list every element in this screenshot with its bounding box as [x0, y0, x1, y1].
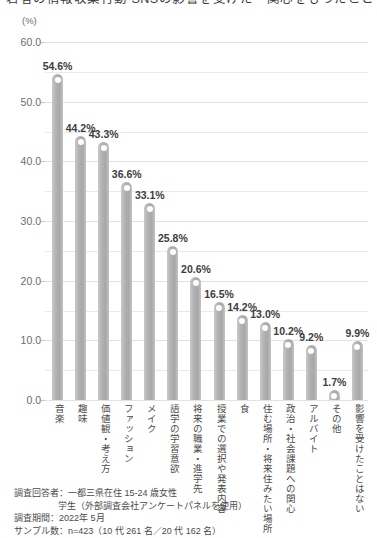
x-axis-category-label: 語学の学習意欲	[166, 404, 179, 474]
y-axis-tick-mark	[41, 102, 45, 103]
bar-cap-hole-icon	[262, 325, 268, 331]
y-axis-tick-mark	[41, 340, 45, 341]
bar-cap-hole-icon	[78, 139, 84, 145]
bar-column[interactable]: 43.3%	[98, 142, 109, 400]
bar[interactable]	[214, 302, 225, 400]
bar-column[interactable]: 9.9%	[352, 341, 363, 400]
bar[interactable]	[260, 322, 271, 400]
bar-column[interactable]: 13.0%	[260, 322, 271, 400]
bar-column[interactable]: 20.6%	[190, 277, 201, 400]
bar[interactable]	[329, 390, 340, 400]
bar-column[interactable]: 36.6%	[121, 182, 132, 400]
bar-value-label: 9.9%	[345, 327, 369, 339]
bar[interactable]	[283, 339, 294, 400]
bar-value-label: 20.6%	[181, 263, 211, 275]
x-axis-category-label: 音楽	[51, 404, 64, 424]
bar[interactable]	[52, 74, 63, 400]
x-axis-category-label: 影響を受けたことはない	[351, 404, 364, 514]
chart-title-cropped: 若者の情報収集行動 SNSの影響を受けた・関心をもったこと	[0, 0, 377, 9]
x-axis-category-label: アルバイト	[305, 404, 318, 454]
gridline-minor	[45, 370, 368, 371]
x-axis-category-label: 価値観・考え方	[97, 404, 110, 474]
bar-cap-hole-icon	[55, 77, 61, 83]
bar-cap-hole-icon	[101, 145, 107, 151]
x-axis-category-label: 授業での選択や発表内容	[213, 404, 226, 514]
bar[interactable]	[144, 203, 155, 400]
bar-column[interactable]: 10.2%	[283, 339, 294, 400]
y-axis-tick-mark	[41, 400, 45, 401]
gridline-minor	[45, 251, 368, 252]
bar-cap-hole-icon	[308, 348, 314, 354]
bar[interactable]	[190, 277, 201, 400]
bar[interactable]	[98, 142, 109, 400]
bar[interactable]	[121, 182, 132, 400]
x-axis-category-label: 食	[236, 404, 249, 414]
x-axis-category-label: 政治・社会課題への関心	[282, 404, 295, 514]
bar-cap-hole-icon	[216, 305, 222, 311]
bar-cap-hole-icon	[147, 206, 153, 212]
y-axis-tick-label: 40.0	[7, 155, 41, 167]
bar-value-label: 1.7%	[322, 376, 346, 388]
gridline-minor	[45, 191, 368, 192]
bar-cap-hole-icon	[331, 393, 337, 399]
x-axis-category-label: 将来の職業・進学先	[189, 404, 202, 494]
y-axis-tick-label: 50.0	[7, 96, 41, 108]
bar-value-label: 9.2%	[299, 331, 323, 343]
bar-cap-hole-icon	[170, 249, 176, 255]
footnote-line-4: サンプル数：n=423（10 代 261 名／20 代 162 名）	[14, 525, 247, 538]
bar-column[interactable]: 33.1%	[144, 203, 155, 400]
x-axis-category-label: メイク	[143, 404, 156, 434]
bar[interactable]	[75, 136, 86, 400]
bar-column[interactable]: 25.8%	[167, 246, 178, 400]
y-axis-tick-mark	[41, 161, 45, 162]
gridline-major	[45, 102, 368, 103]
y-axis-tick-label: 20.0	[7, 275, 41, 287]
gridline-minor	[45, 72, 368, 73]
bar-column[interactable]: 14.2%	[237, 315, 248, 400]
bar-value-label: 33.1%	[135, 189, 165, 201]
y-axis-tick-mark	[41, 221, 45, 222]
y-axis-tick-mark	[41, 281, 45, 282]
bar-column[interactable]: 44.2%	[75, 136, 86, 400]
gridline-major	[45, 161, 368, 162]
bar-value-label: 54.6%	[43, 60, 73, 72]
chart-title-text: 若者の情報収集行動 SNSの影響を受けた・関心をもったこと	[6, 0, 375, 7]
bar-chart: (%) 54.6%44.2%43.3%36.6%33.1%25.8%20.6%1…	[0, 9, 377, 409]
bar-value-label: 13.0%	[250, 308, 280, 320]
bar-cap-hole-icon	[239, 318, 245, 324]
bar-cap-hole-icon	[124, 185, 130, 191]
bar-cap-hole-icon	[193, 280, 199, 286]
bar-value-label: 36.6%	[112, 168, 142, 180]
bar-value-label: 43.3%	[89, 128, 119, 140]
bar[interactable]	[306, 345, 317, 400]
plot-area: 54.6%44.2%43.3%36.6%33.1%25.8%20.6%16.5%…	[45, 42, 368, 400]
y-axis-tick-label: 30.0	[7, 215, 41, 227]
gridline-major	[45, 42, 368, 43]
bar[interactable]	[352, 341, 363, 400]
x-axis-category-label: その他	[328, 404, 341, 434]
x-axis-category-label: ファッション	[120, 404, 133, 464]
x-axis-category-label: 住む場所・将来住みたい場所	[259, 404, 272, 534]
y-axis-tick-label: 10.0	[7, 334, 41, 346]
bar-column[interactable]: 16.5%	[214, 302, 225, 400]
gridline-major	[45, 281, 368, 282]
bar-value-label: 25.8%	[158, 232, 188, 244]
bar-cap-hole-icon	[285, 342, 291, 348]
bar-column[interactable]: 54.6%	[52, 74, 63, 400]
bar-column[interactable]: 9.2%	[306, 345, 317, 400]
y-axis-unit-label: (%)	[22, 15, 37, 26]
gridline-major	[45, 400, 368, 401]
bar-value-label: 16.5%	[204, 288, 234, 300]
bar[interactable]	[167, 246, 178, 400]
y-axis-tick-mark	[41, 42, 45, 43]
y-axis-tick-label: 0.0	[7, 394, 41, 406]
gridline-major	[45, 221, 368, 222]
x-axis-category-label: 趣味	[74, 404, 87, 424]
bar-cap-hole-icon	[354, 344, 360, 350]
bar-column[interactable]: 1.7%	[329, 390, 340, 400]
y-axis-tick-label: 60.0	[7, 36, 41, 48]
gridline-minor	[45, 311, 368, 312]
bar[interactable]	[237, 315, 248, 400]
